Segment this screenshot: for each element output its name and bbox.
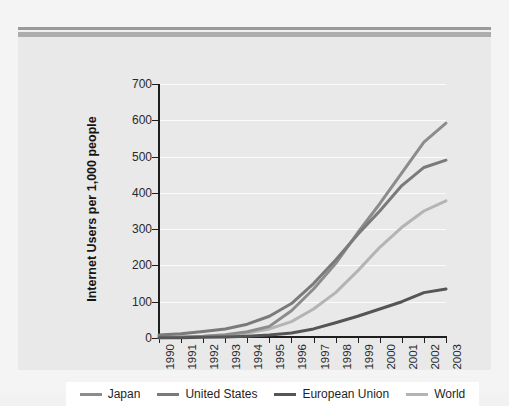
legend-item[interactable]: United States <box>157 387 257 401</box>
x-axis-tick <box>314 338 315 343</box>
legend-item[interactable]: European Union <box>274 387 389 401</box>
legend-item[interactable]: World <box>406 387 465 401</box>
series-line <box>159 201 446 338</box>
y-axis-tick <box>152 338 158 339</box>
y-axis-tick-label: 0 <box>112 333 152 343</box>
x-axis-tick <box>446 338 447 343</box>
y-axis-tick-labels: 0100200300400500600700 <box>106 37 152 370</box>
y-axis-tick-label: 200 <box>112 260 152 270</box>
x-axis-tick <box>402 338 403 343</box>
legend-label: United States <box>185 387 257 401</box>
x-axis-tick <box>269 338 270 343</box>
series-line <box>159 160 446 335</box>
y-axis-title-wrap: Internet Users per 1,000 people <box>82 97 102 327</box>
x-axis-tick <box>291 338 292 343</box>
plot-area <box>159 84 446 338</box>
legend-swatch-icon <box>274 393 296 396</box>
x-axis-tick <box>247 338 248 343</box>
legend-swatch-icon <box>157 393 179 396</box>
x-axis-tick <box>380 338 381 343</box>
y-axis-tick-label: 300 <box>112 224 152 234</box>
x-axis-tick <box>358 338 359 343</box>
y-axis-tick-label: 600 <box>112 115 152 125</box>
x-axis-tick <box>424 338 425 343</box>
series-lines <box>159 84 446 338</box>
legend-label: World <box>434 387 465 401</box>
y-axis-tick-label: 100 <box>112 297 152 307</box>
series-line <box>159 123 446 337</box>
x-axis-tick <box>225 338 226 343</box>
chart-legend: JapanUnited StatesEuropean UnionWorld <box>66 382 479 406</box>
y-axis-tick-label: 500 <box>112 152 152 162</box>
x-axis-tick <box>336 338 337 343</box>
y-axis-title: Internet Users per 1,000 people <box>85 94 99 324</box>
legend-swatch-icon <box>80 393 102 396</box>
y-axis-tick-label: 400 <box>112 188 152 198</box>
legend-swatch-icon <box>406 393 428 396</box>
legend-item[interactable]: Japan <box>80 387 141 401</box>
legend-label: European Union <box>302 387 389 401</box>
legend-label: Japan <box>108 387 141 401</box>
y-axis-tick-label: 700 <box>112 79 152 89</box>
chart-panel: Internet Users per 1,000 people 01002003… <box>18 37 491 370</box>
